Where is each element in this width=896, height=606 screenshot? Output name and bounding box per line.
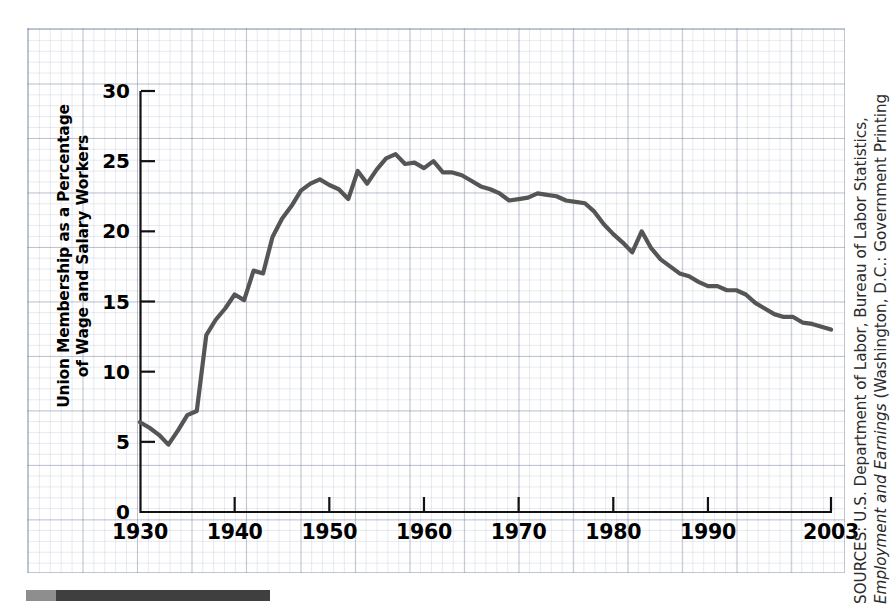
y-axis-tick-label-20: 20 (84, 221, 130, 241)
bottom-rule-bar (26, 590, 270, 601)
x-axis-tick-label-1940: 1940 (189, 522, 281, 543)
x-axis-tick-label-1970: 1970 (473, 522, 565, 543)
x-axis-tick-label-1950: 1950 (283, 522, 375, 543)
x-axis-tick-label-2003: 2003 (785, 522, 877, 543)
bottom-rule-dark-segment (56, 590, 270, 601)
union-membership-data-line (140, 154, 831, 444)
y-axis-tick-label-15: 15 (84, 292, 130, 312)
bottom-rule-light-segment (26, 590, 56, 601)
y-axis-tick-label-10: 10 (84, 362, 130, 382)
y-axis-tick-label-5: 5 (84, 432, 130, 452)
y-axis-tick-label-30: 30 (84, 81, 130, 101)
y-axis-ticks (141, 91, 155, 442)
x-axis-ticks (235, 497, 831, 511)
y-axis-tick-label-25: 25 (84, 151, 130, 171)
line-chart (0, 0, 896, 606)
x-axis-tick-label-1960: 1960 (378, 522, 470, 543)
x-axis-tick-label-1990: 1990 (662, 522, 754, 543)
x-axis-tick-label-1930: 1930 (94, 522, 186, 543)
y-axis-tick-label-0: 0 (84, 502, 130, 522)
x-axis-tick-label-1980: 1980 (567, 522, 659, 543)
